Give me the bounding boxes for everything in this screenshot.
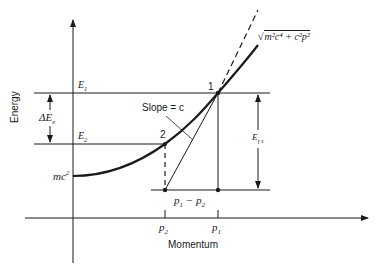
slope-pointer: [166, 116, 193, 140]
diagram-canvas: [0, 0, 385, 276]
e1-label: E1: [78, 80, 87, 90]
slope-label: Slope = c: [142, 103, 184, 113]
point-2-dot: [163, 142, 167, 146]
p-diff-minus: − p: [183, 194, 201, 206]
e2-subscript: 2: [84, 136, 87, 143]
delta-e-subscript: e: [52, 118, 55, 126]
p2-tick-label: p2: [159, 222, 168, 233]
p-diff-p2-subscript: 2: [202, 201, 206, 209]
point-2-label: 2: [160, 130, 166, 140]
momentum-axis-label: Momentum: [168, 240, 218, 250]
p2-base-dot: [163, 188, 167, 192]
rest-energy-symbol: mc: [53, 170, 66, 182]
p2-subscript: 2: [165, 228, 169, 236]
p1-tick-label: p1: [212, 222, 221, 233]
point-1-label: 1: [208, 82, 214, 92]
point-1-dot: [216, 91, 220, 95]
curve-formula-label: √m²c⁴ + c²p²: [258, 32, 310, 42]
sqrt-symbol: √: [258, 31, 264, 42]
e2-label: E2: [78, 131, 87, 141]
delta-e-symbol: ΔE: [39, 111, 52, 123]
rest-energy-label: mc2: [53, 171, 69, 182]
e1-subscript: 1: [84, 85, 87, 92]
e-gamma-label: Eγ s: [252, 133, 264, 142]
delta-e-label: ΔEe: [39, 112, 55, 123]
p-diff-label: p1 − p2: [174, 195, 205, 206]
rest-energy-superscript: 2: [66, 169, 70, 177]
p1-base-dot: [216, 188, 220, 192]
energy-axis-label: Energy: [10, 91, 20, 123]
e-gamma-subscript: γ s: [258, 138, 264, 144]
curve-formula-radicand: m²c⁴ + c²p²: [264, 30, 310, 42]
p1-subscript: 1: [218, 228, 222, 236]
